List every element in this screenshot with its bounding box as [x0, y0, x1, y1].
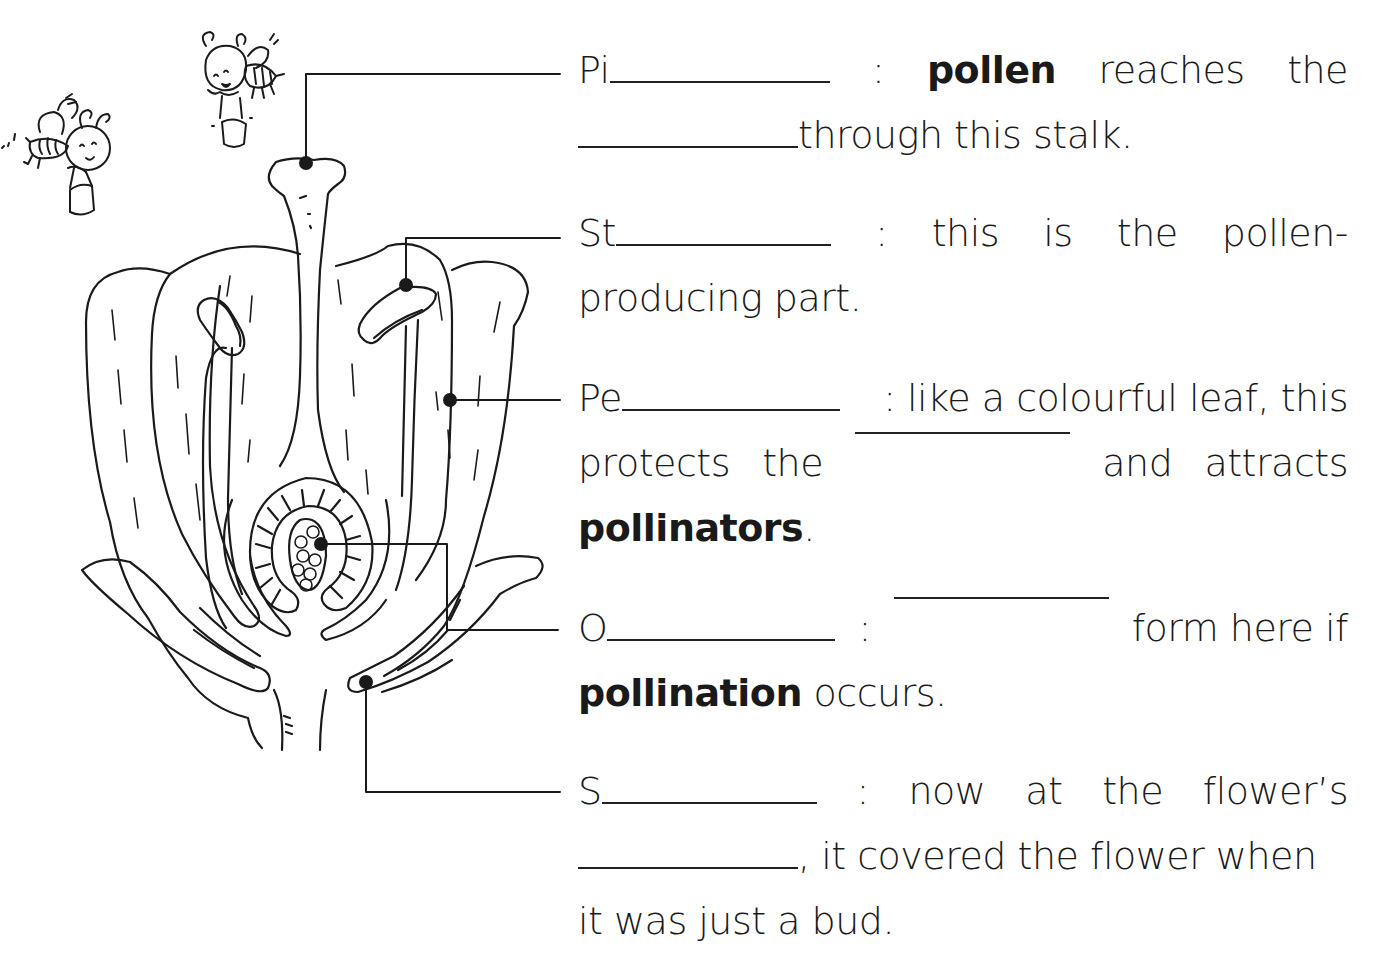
ovary-forms-blank[interactable] — [894, 596, 1109, 599]
word: is — [1043, 201, 1072, 266]
bee-icon — [2, 94, 110, 215]
word: and — [1102, 431, 1172, 496]
ovary-prefix: O — [578, 606, 607, 650]
keyword-pollinators: pollinators — [578, 506, 803, 550]
word: at — [1025, 759, 1062, 824]
petal-line-2: protects the and attracts — [578, 431, 1348, 496]
keyword-pollen: pollen — [927, 38, 1056, 103]
ovary-line-1: O : form here if — [578, 596, 1348, 661]
word: attracts — [1204, 431, 1348, 496]
sepal-line-3: it was just a bud. — [578, 889, 1348, 953]
sepal-answer-blank[interactable] — [602, 801, 817, 804]
text: form here if — [1132, 596, 1348, 661]
petal-answer-blank[interactable] — [622, 408, 840, 411]
stamen-prefix: St — [578, 211, 616, 255]
colon: : — [875, 201, 887, 266]
word: the — [1287, 38, 1348, 103]
colon: : — [856, 759, 868, 824]
word: now — [909, 759, 986, 824]
sepal-line-1: S : now at the flower’s — [578, 759, 1348, 824]
text: . — [803, 506, 815, 550]
text: producing part. — [578, 276, 861, 320]
word: protects — [578, 431, 730, 496]
pointer-petal — [444, 394, 560, 406]
pistil-line-2: through this stalk. — [578, 103, 1348, 168]
word: this — [932, 201, 999, 266]
word: pollen- — [1222, 201, 1348, 266]
flower-outline — [82, 158, 543, 750]
pistil-line-1: Pi : pollen reaches the — [578, 38, 1348, 103]
word: reaches — [1099, 38, 1245, 103]
sepal-position-blank[interactable] — [578, 866, 798, 869]
pointer-sepal — [360, 676, 560, 792]
word: the — [1102, 759, 1163, 824]
stamen-line-2: producing part. — [578, 266, 1348, 331]
bee-icon — [203, 32, 284, 147]
word: the — [762, 431, 823, 496]
pointer-stamen — [400, 238, 560, 291]
text: it was just a bud. — [578, 899, 894, 943]
text: : like a colourful leaf, this — [883, 366, 1348, 431]
petal-prefix: Pe — [578, 376, 622, 420]
pistil-destination-blank[interactable] — [578, 145, 798, 148]
sepal-prefix: S — [578, 769, 602, 813]
pistil-answer-blank[interactable] — [610, 80, 830, 83]
petal-line-1: Pe : like a colourful leaf, this — [578, 366, 1348, 431]
petal-protects-blank[interactable] — [855, 431, 1070, 434]
ovary-answer-blank[interactable] — [607, 638, 835, 641]
stamen-answer-blank[interactable] — [616, 243, 831, 246]
text: , it covered the flower when — [798, 834, 1316, 878]
keyword-pollination: pollination — [578, 671, 802, 715]
colon: : — [858, 596, 870, 661]
stamen-line-1: St : this is the pollen- — [578, 201, 1348, 266]
pointer-pistil — [300, 74, 560, 169]
text: occurs. — [802, 671, 947, 715]
word: the — [1117, 201, 1178, 266]
sepal-line-2: , it covered the flower when — [578, 824, 1348, 889]
word: flower’s — [1203, 759, 1348, 824]
pistil-prefix: Pi — [578, 48, 610, 92]
colon: : — [872, 38, 884, 103]
petal-line-3: pollinators. — [578, 496, 1348, 561]
ovary-line-2: pollination occurs. — [578, 661, 1348, 726]
text: through this stalk. — [798, 113, 1133, 157]
